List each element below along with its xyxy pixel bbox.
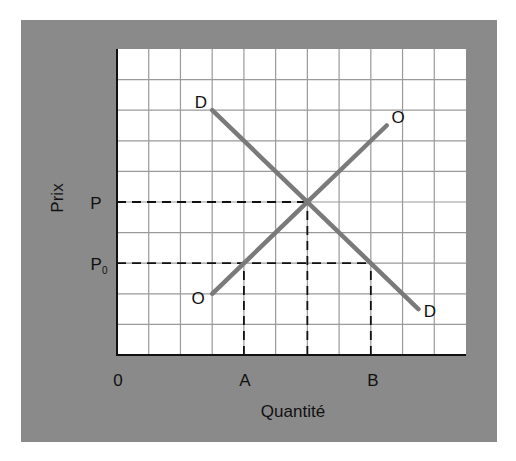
- supply-label-bottom: O: [191, 290, 204, 307]
- plot-area: [0, 0, 516, 461]
- demand-label-top: D: [195, 94, 207, 111]
- demand-label-bottom: D: [424, 303, 436, 320]
- x-tick-origin: 0: [113, 372, 122, 389]
- x-tick-a: A: [239, 372, 250, 389]
- supply-label-top: O: [391, 109, 404, 126]
- y-tick-p: P: [90, 195, 101, 212]
- y-axis-label: Prix: [48, 183, 68, 212]
- x-tick-b: B: [367, 372, 378, 389]
- x-axis-label: Quantité: [261, 403, 325, 420]
- y-tick-p0: P0: [91, 256, 108, 276]
